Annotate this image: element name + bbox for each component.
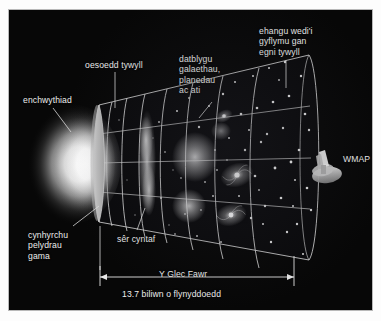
label-big-bang: Y Glec Fawr [159, 269, 207, 279]
label-first-stars: sêr cyntaf [117, 234, 155, 244]
big-bang-cap [91, 105, 105, 222]
label-inflation: enchwythiad [23, 95, 72, 105]
label-galaxy-development: datblygu galaethau, planedau ac ati [179, 54, 220, 96]
figure-canvas: enchwythiad oesoedd tywyll datblygu gala… [0, 0, 381, 321]
label-dark-energy-expansion: ehangu wedi'i gyflymu gan egni tywyll [259, 26, 313, 57]
label-gamma-ray-production: cynhyrchu pelydrau gama [28, 230, 68, 261]
label-universe-age: 13.7 biliwn o flynyddoedd [122, 289, 221, 299]
inflation-glow [21, 104, 121, 224]
label-wmap: WMAP [343, 154, 370, 164]
label-dark-ages: oesoedd tywyll [85, 60, 143, 70]
diagram-panel: enchwythiad oesoedd tywyll datblygu gala… [8, 9, 373, 311]
